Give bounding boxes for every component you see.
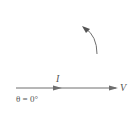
angle-label: θ = 0° xyxy=(16,94,38,104)
v-phasor-arrow xyxy=(16,86,118,91)
current-label: I xyxy=(56,74,59,84)
rotation-arrow-icon xyxy=(82,26,97,54)
phasor-diagram: I V θ = 0° xyxy=(0,0,134,130)
phasor-diagram-svg xyxy=(0,0,134,130)
i-phasor-arrow xyxy=(53,86,62,91)
voltage-label: V xyxy=(120,83,126,93)
